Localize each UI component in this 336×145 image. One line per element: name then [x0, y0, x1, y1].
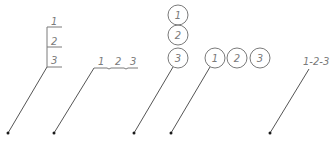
label-2: 2: [234, 53, 240, 64]
label-2: 2: [51, 36, 57, 47]
leader-line: [134, 67, 173, 133]
anchor-dot: [53, 132, 56, 135]
leader-line: [171, 67, 210, 133]
label-3: 3: [51, 55, 57, 66]
leader-line: [54, 68, 94, 133]
label-2: 2: [175, 30, 181, 41]
label-2: 2: [115, 56, 121, 67]
callout-dash-text: 1-2-3: [269, 56, 330, 135]
leader-line: [8, 67, 47, 133]
anchor-dot: [269, 132, 272, 135]
label-3: 3: [130, 56, 136, 67]
callout-horizontal-balloons: 1 2 3: [170, 48, 271, 135]
callout-horizontal-shelf: 1 2 3: [53, 56, 139, 135]
anchor-dot: [170, 132, 173, 135]
anchor-dot: [7, 132, 10, 135]
label-1: 1: [98, 56, 104, 67]
label-1: 1: [51, 16, 57, 27]
callout-vertical-balloons: 1 2 3: [133, 5, 189, 135]
callout-diagram: 1 2 3 1 2 3 1 2 3 1 2 3 1-2-3: [0, 0, 336, 145]
label-3: 3: [175, 53, 181, 64]
leader-line: [270, 69, 309, 133]
label-3: 3: [257, 53, 263, 64]
callout-vertical-stack: 1 2 3: [7, 16, 63, 135]
shelf-line: [94, 68, 138, 69]
label-1: 1: [212, 53, 218, 64]
anchor-dot: [133, 132, 136, 135]
label-text: 1-2-3: [303, 56, 329, 67]
label-1: 1: [175, 10, 181, 21]
